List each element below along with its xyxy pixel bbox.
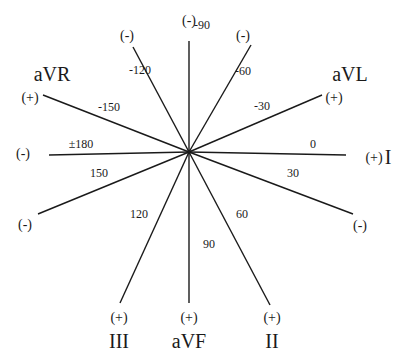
lead-avr-label: aVR — [34, 63, 71, 85]
axis-180-line — [49, 152, 189, 155]
axis-150-line — [38, 152, 189, 214]
axis-150-degree-label: 150 — [90, 166, 108, 180]
axis-minus-150-degree-label: -150 — [98, 100, 120, 114]
axis-90-polarity-label: (+) — [180, 310, 198, 326]
axis-0-line — [189, 152, 346, 155]
axis-minus-150-polarity-label: (+) — [21, 90, 39, 106]
axis-minus-120-polarity-label: (-) — [120, 28, 134, 44]
lead-iii-label: III — [109, 330, 129, 352]
axis-30-degree-label: 30 — [287, 166, 299, 180]
axis-120-polarity-label: (+) — [110, 310, 128, 326]
axis-minus-90-polarity-label: (-) — [182, 13, 196, 29]
axis-180-polarity-label: (-) — [16, 146, 30, 162]
axis-60-line — [189, 152, 270, 305]
lead-avl-label: aVL — [332, 63, 368, 85]
lead-ii-label: II — [265, 330, 278, 352]
axis-60-polarity-label: (+) — [263, 310, 281, 326]
axis-0-polarity-label: (+) — [365, 150, 383, 166]
axis-minus-60-polarity-label: (-) — [236, 28, 250, 44]
axis-30-line — [189, 152, 353, 214]
lead-avf-label: aVF — [172, 330, 206, 352]
axis-120-degree-label: 120 — [130, 207, 148, 221]
axis-60-degree-label: 60 — [236, 207, 248, 221]
axes-group — [38, 41, 353, 305]
axis-0-degree-label: 0 — [310, 137, 316, 151]
axis-minus-30-polarity-label: (+) — [325, 90, 343, 106]
axis-minus-120-degree-label: -120 — [129, 63, 151, 77]
axis-180-degree-label: ±180 — [69, 137, 94, 151]
axis-90-degree-label: 90 — [203, 237, 215, 251]
lead-i-label: I — [385, 146, 392, 168]
axis-150-polarity-label: (-) — [18, 217, 32, 233]
axis-30-polarity-label: (-) — [353, 218, 367, 234]
axis-minus-60-degree-label: -60 — [235, 64, 251, 78]
labels-group: -90(-)-120(-)-60(-)-150(+)-30(+)±180(-)0… — [16, 13, 391, 352]
center-point — [187, 150, 191, 154]
axis-minus-90-degree-label: -90 — [194, 18, 210, 32]
axis-minus-60-line — [189, 45, 251, 152]
axis-minus-30-degree-label: -30 — [254, 99, 270, 113]
axis-120-line — [120, 152, 189, 303]
hexaxial-diagram: -90(-)-120(-)-60(-)-150(+)-30(+)±180(-)0… — [0, 0, 405, 358]
